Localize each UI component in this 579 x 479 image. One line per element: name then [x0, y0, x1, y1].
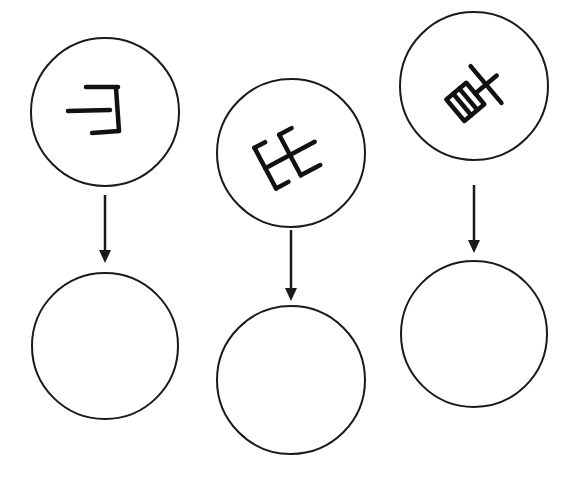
arrow-head-3 [468, 240, 480, 253]
target-circle-3 [401, 261, 547, 407]
arrow-head-2 [285, 288, 297, 301]
column-2 [217, 79, 365, 454]
target-circle-1 [32, 273, 178, 419]
column-1 [31, 38, 179, 419]
diagram-svg [0, 0, 579, 479]
target-circle-2 [217, 306, 365, 454]
diagram-canvas [0, 0, 579, 479]
source-circle-3 [400, 12, 548, 160]
column-3 [400, 12, 548, 407]
arrow-head-1 [99, 250, 111, 263]
